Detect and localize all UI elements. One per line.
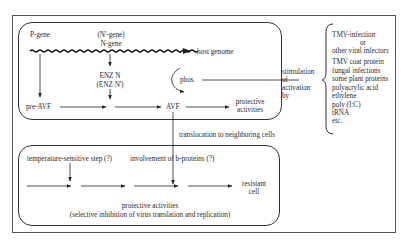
protective-activities-label: protective activities: [60, 202, 240, 210]
translocation-label: translocation to neighboring cells: [179, 131, 275, 139]
enz-n-label: ENZ N: [90, 72, 130, 80]
inducer-item: tRNA: [332, 109, 349, 117]
enz-n-prime-label: (ENZ N'): [90, 81, 130, 89]
inducer-item: some plant proteins: [332, 75, 388, 83]
avf-label: AVF: [166, 103, 179, 111]
stimulation-line1: stimulation: [282, 68, 314, 76]
resistant-cell-line1: resistant: [236, 180, 272, 188]
inducer-item: fungal infections: [332, 67, 381, 75]
selective-inhibition-label: (selective inhibition of virus translati…: [40, 211, 260, 219]
stimulation-line3: activation: [282, 84, 310, 92]
host-genome-label: host genome: [197, 48, 234, 56]
n-prime-gene-label: (N'-gene): [92, 31, 130, 39]
inducer-item: poly (I:C): [332, 101, 361, 109]
inducer-item: etc.: [332, 117, 342, 125]
protective-activities-line1: protective: [230, 98, 270, 106]
phos-label: phos.: [180, 76, 195, 84]
inducer-item: other viral infectors: [332, 47, 389, 55]
pre-avf-label: pre-AVF: [26, 103, 51, 111]
inducer-item: TMV-infection: [332, 31, 375, 39]
protective-activities-line2: activities: [230, 106, 270, 114]
inducer-item: ethylene: [332, 92, 356, 100]
resistant-cell-line2: cell: [236, 188, 272, 196]
stimulation-line4: by: [282, 92, 289, 100]
stimulation-line2: of: [282, 76, 288, 84]
inducer-item: polyacrylic acid: [332, 84, 378, 92]
host-genome-line: [30, 50, 198, 52]
inducer-item: or: [332, 39, 394, 47]
temperature-step-label: temperature-sensitive step (?): [27, 155, 112, 163]
inducer-item: TMV coat protein: [332, 58, 384, 66]
b-proteins-label: involvement of b-proteins (?): [130, 155, 214, 163]
n-gene-label: N-gene: [92, 40, 130, 48]
p-gene-label: P-gene: [30, 31, 50, 39]
